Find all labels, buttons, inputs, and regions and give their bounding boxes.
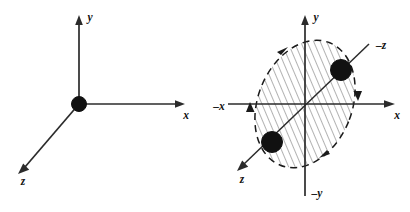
right-x-arrow-icon: [384, 100, 395, 108]
left-label-y: y: [85, 11, 93, 24]
left-x-axis: [79, 100, 185, 108]
node-sphere-ascending: [331, 60, 352, 81]
right-y-arrow-icon: [301, 15, 309, 25]
left-y-arrow-icon: [75, 15, 83, 25]
physics-diagram-svg: y x z: [0, 0, 410, 212]
left-x-arrow-icon: [175, 100, 185, 108]
right-label-neg-y: –y: [311, 187, 324, 200]
figure-root: y x z: [0, 0, 410, 212]
left-y-axis: [75, 15, 83, 104]
left-label-z: z: [20, 175, 26, 187]
left-panel: y x z: [18, 11, 189, 187]
right-label-y: y: [311, 11, 319, 24]
right-label-neg-x: –x: [212, 100, 225, 112]
right-label-neg-z: –z: [375, 39, 387, 51]
node-sphere-descending: [262, 132, 283, 153]
left-z-axis: [18, 104, 79, 174]
right-panel: y –y x –x –z z: [212, 11, 400, 200]
right-label-z: z: [239, 173, 245, 185]
left-origin-dot: [72, 97, 87, 112]
right-label-x: x: [393, 109, 400, 121]
left-label-x: x: [182, 109, 189, 121]
